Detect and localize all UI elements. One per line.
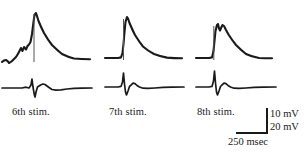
panel-label-7th-stim: 7th stim.: [109, 106, 147, 117]
trace-panel-6th-stim: [0, 0, 100, 100]
upper-trace-panel-0: [2, 13, 90, 63]
lower-trace-panel-0: [2, 79, 92, 97]
upper-trace-panel-1: [105, 17, 182, 58]
lower-trace-panel-2: [196, 71, 276, 95]
panel-label-6th-stim: 6th stim.: [12, 106, 50, 117]
scale-bar-vertical-rule: [266, 108, 268, 134]
trace-panel-7th-stim: [97, 0, 197, 100]
trace-svg-panel-0: [0, 0, 100, 100]
calibration-scale-bar: 10 mV 20 mV 250 msec: [228, 106, 307, 158]
scale-label-lower-voltage: 20 mV: [270, 121, 299, 132]
trace-svg-panel-1: [97, 0, 197, 100]
electrophysiology-figure: 6th stim. 7th stim. 8th stim. 10 mV 20 m…: [0, 0, 307, 158]
scale-label-time: 250 msec: [228, 136, 268, 147]
trace-svg-panel-2: [190, 0, 307, 100]
trace-panel-8th-stim: [190, 0, 307, 100]
upper-trace-panel-2: [196, 24, 272, 58]
lower-trace-panel-1: [105, 73, 184, 95]
scale-bar-horizontal-rule: [236, 132, 267, 134]
scale-label-upper-voltage: 10 mV: [270, 108, 299, 119]
